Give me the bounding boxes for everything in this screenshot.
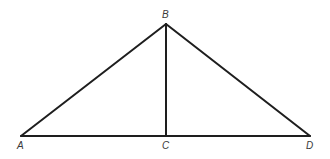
label-d: D [306, 140, 313, 151]
label-b: B [162, 9, 169, 20]
label-a: A [16, 140, 24, 151]
segments [21, 24, 310, 136]
triangle-diagram: A B C D [0, 0, 330, 159]
segment-ab [21, 24, 166, 136]
segment-bd [166, 24, 310, 136]
label-c: C [162, 140, 170, 151]
